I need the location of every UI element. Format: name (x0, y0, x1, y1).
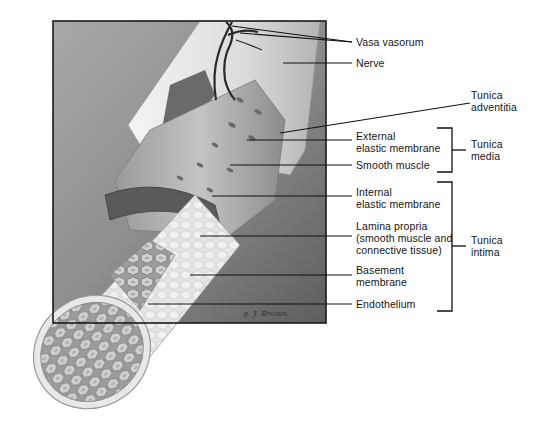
label-basement-membrane: Basement membrane (356, 264, 407, 288)
label-tunica-adventitia: Tunica adventitia (471, 89, 517, 113)
artery-diagram: g. J. Brown Vasa vasorum Nerve Tunica ad… (0, 0, 544, 432)
label-external-elastic-membrane: External elastic membrane (356, 130, 440, 154)
label-smooth-muscle: Smooth muscle (356, 159, 430, 171)
label-internal-elastic-membrane: Internal elastic membrane (356, 186, 440, 210)
label-tunica-intima: Tunica intima (471, 234, 503, 258)
label-lamina-propria: Lamina propria (smooth muscle and connec… (356, 220, 452, 256)
label-nerve: Nerve (356, 57, 385, 69)
label-endothelium: Endothelium (356, 298, 415, 310)
label-vasa-vasorum: Vasa vasorum (356, 36, 424, 48)
label-tunica-media: Tunica media (471, 138, 503, 162)
artist-signature: g. J. Brown (243, 309, 287, 318)
artery-illustration: g. J. Brown (0, 0, 544, 432)
